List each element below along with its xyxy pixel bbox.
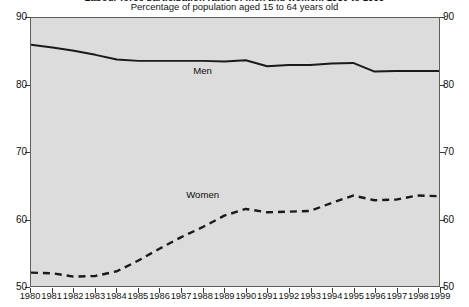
x-tick-label: 1995 — [343, 291, 364, 301]
x-tick-label: 1986 — [149, 291, 170, 301]
x-tick-label: 1987 — [171, 291, 192, 301]
y-tick-label-left: 70 — [16, 147, 27, 157]
chart-subtitle: Percentage of population aged 15 to 64 y… — [0, 1, 469, 13]
series-line-women — [31, 196, 439, 277]
plot-area — [30, 17, 440, 287]
series-label-women: Women — [186, 190, 219, 200]
x-tick-label: 1993 — [300, 291, 321, 301]
y-tick-label-right: 60 — [443, 215, 454, 225]
series-label-men: Men — [193, 66, 212, 76]
x-tick-label: 1997 — [386, 291, 407, 301]
x-tick-label: 1989 — [214, 291, 235, 301]
x-tick-label: 1990 — [235, 291, 256, 301]
x-tick-label: 1988 — [192, 291, 213, 301]
x-tick-label: 1992 — [279, 291, 300, 301]
chart-container: Labour force participation rates of men … — [0, 0, 469, 307]
y-tick-label-right: 90 — [443, 12, 454, 22]
y-tick-label-left: 60 — [16, 215, 27, 225]
x-tick-label: 1980 — [20, 291, 41, 301]
y-tick-label-left: 80 — [16, 80, 27, 90]
x-tick-label: 1983 — [84, 291, 105, 301]
x-tick-label: 1984 — [106, 291, 127, 301]
x-tick-label: 1998 — [408, 291, 429, 301]
x-tick-label: 1999 — [430, 291, 451, 301]
x-tick-label: 1981 — [41, 291, 62, 301]
x-tick-label: 1994 — [322, 291, 343, 301]
y-tick-label-left: 90 — [16, 12, 27, 22]
x-tick-label: 1985 — [128, 291, 149, 301]
x-tick-label: 1996 — [365, 291, 386, 301]
y-tick-label-right: 70 — [443, 147, 454, 157]
series-line-men — [31, 45, 439, 72]
series-canvas — [31, 18, 439, 286]
x-tick-label: 1982 — [63, 291, 84, 301]
x-tick-label: 1991 — [257, 291, 278, 301]
y-tick-label-right: 80 — [443, 80, 454, 90]
